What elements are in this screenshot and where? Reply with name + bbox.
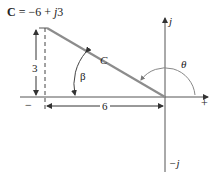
minus-label: − — [25, 98, 32, 112]
theta-arc — [141, 68, 195, 95]
equation: C = −6 + j3 — [7, 5, 63, 19]
j-axis-label: j — [167, 15, 172, 27]
vector-label: C — [100, 54, 108, 66]
height-label: 3 — [32, 62, 38, 74]
phasor-diagram: C = −6 + j3 3 6 β θ C j −j + − — [0, 0, 223, 184]
beta-label: β — [80, 70, 86, 82]
neg-j-axis-label: −j — [169, 157, 179, 169]
plus-label: + — [201, 96, 208, 110]
theta-label: θ — [181, 58, 187, 70]
width-label: 6 — [102, 100, 108, 112]
